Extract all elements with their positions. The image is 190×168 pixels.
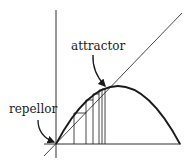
repellor-arrow — [38, 120, 54, 142]
cobweb-steps — [74, 88, 105, 144]
map-curve — [56, 86, 180, 144]
identity-line — [44, 13, 182, 156]
repellor-label: repellor — [9, 102, 58, 116]
attractor-arrow — [93, 55, 105, 86]
attractor-label: attractor — [71, 39, 125, 53]
cobweb-diagram: attractor repellor — [0, 0, 190, 168]
